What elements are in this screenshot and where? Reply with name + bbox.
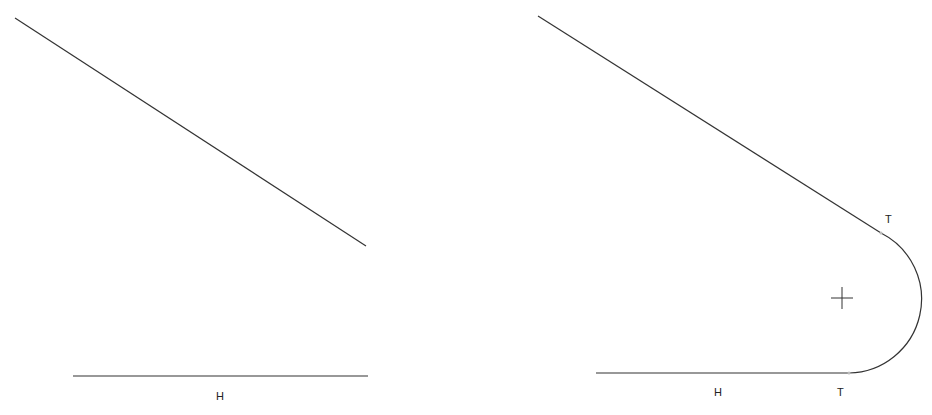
- tangent-label-top: T: [885, 213, 892, 225]
- diagonal-line: [15, 18, 366, 246]
- after-panel: H T T: [538, 16, 922, 398]
- crosshair-icon: [831, 287, 853, 309]
- fillet-diagram: H H T T: [0, 0, 932, 415]
- tangent-point-bottom: [848, 372, 851, 375]
- fillet-arc: [849, 233, 922, 373]
- before-panel: H: [15, 18, 368, 402]
- tangent-point-top: [880, 232, 883, 235]
- horizontal-line-label: H: [216, 390, 224, 402]
- diagonal-line: [538, 16, 881, 233]
- tangent-label-bottom: T: [837, 386, 844, 398]
- horizontal-line-label: H: [714, 386, 722, 398]
